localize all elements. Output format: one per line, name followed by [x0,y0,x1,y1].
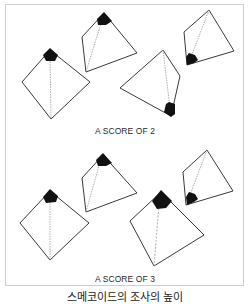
pyramid-5 [20,189,89,260]
pyramid-4 [184,10,234,65]
pyramid-1-cap [43,48,58,61]
pyramid-7-cap [152,190,172,209]
pyramid-6-cap [96,153,112,166]
pyramid-4-cap [186,53,198,65]
footer-caption: 스메코이드의 조사의 높이 [0,290,250,304]
score-3-caption: A SCORE OF 3 [0,274,250,284]
pyramid-6 [82,153,137,212]
pyramid-1 [22,48,90,119]
pyramid-3-cap [164,102,175,117]
score-2-caption: A SCORE OF 2 [0,126,250,136]
pyramid-3 [120,50,180,117]
pyramid-8 [183,150,233,205]
pyramid-2 [82,12,137,72]
pyramid-5-cap [43,189,58,203]
pyramid-2-cap [97,12,112,25]
